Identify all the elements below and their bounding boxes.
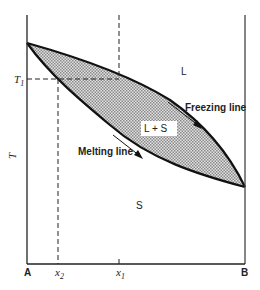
x2-label: x2 bbox=[54, 266, 64, 281]
region-liquid-label: L bbox=[181, 66, 187, 77]
two-phase-region bbox=[27, 43, 245, 187]
x-axis-label-a: A bbox=[24, 267, 31, 278]
y-axis-label: T bbox=[6, 152, 18, 159]
region-two-phase-label: L + S bbox=[144, 123, 168, 134]
t1-label: T1 bbox=[14, 73, 24, 88]
x1-label: x1 bbox=[115, 266, 125, 281]
x-axis-label-b: B bbox=[241, 267, 248, 278]
phase-diagram: L L + S S Freezing line Melting line T T… bbox=[0, 0, 260, 290]
region-solid-label: S bbox=[136, 200, 143, 211]
freezing-line-label: Freezing line bbox=[185, 102, 247, 113]
melting-line-label: Melting line bbox=[78, 146, 133, 157]
